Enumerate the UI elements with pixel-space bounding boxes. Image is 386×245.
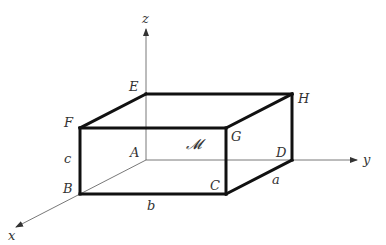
z-axis-label: z — [141, 11, 149, 26]
vertex-label-e: E — [128, 79, 139, 94]
edge-c-d — [226, 160, 292, 194]
vertex-label-c: C — [210, 178, 220, 193]
vertex-label-h: H — [297, 91, 310, 106]
y-axis-label: y — [362, 152, 371, 167]
vertex-label-a: A — [129, 145, 139, 160]
vertex-label-f: F — [63, 115, 74, 130]
dimension-label-c: c — [64, 151, 72, 166]
vertex-label-g: G — [231, 129, 241, 144]
box-diagram: x y z A B C D E F G H a b c 𝓜 — [0, 0, 386, 245]
edge-g-h — [226, 94, 292, 128]
x-axis-label: x — [8, 228, 16, 243]
dimension-label-a: a — [272, 172, 280, 187]
vertex-label-b: B — [62, 181, 73, 196]
region-label-m: 𝓜 — [186, 136, 206, 152]
edge-e-f — [80, 94, 146, 128]
vertex-label-d: D — [275, 145, 287, 160]
dimension-label-b: b — [147, 198, 155, 213]
